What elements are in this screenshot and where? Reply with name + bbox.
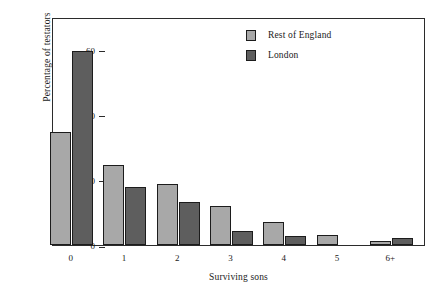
bar (232, 231, 253, 245)
bar (103, 165, 124, 245)
chart-legend: Rest of EnglandLondon (246, 25, 331, 65)
bar (210, 206, 231, 245)
bar (285, 236, 306, 245)
x-tick-label: 3 (211, 253, 251, 263)
legend-item: London (246, 45, 331, 65)
bar (157, 184, 178, 245)
bar (263, 222, 284, 245)
bar (317, 235, 338, 245)
y-tick-mark (99, 116, 105, 117)
y-axis-label: Percentage of testators (42, 0, 52, 137)
bar-chart-figure: Percentage of testators 0204060 0123456+… (0, 0, 439, 298)
legend-swatch-icon (246, 30, 256, 41)
bar (392, 238, 413, 245)
bar (125, 187, 146, 245)
x-tick-label: 2 (157, 253, 197, 263)
plot-area: 0204060 (52, 18, 425, 246)
y-tick-mark (99, 51, 105, 52)
bar (50, 132, 71, 245)
bar (179, 202, 200, 245)
legend-label: London (268, 50, 298, 60)
legend-swatch-icon (246, 50, 256, 61)
x-tick-label: 0 (51, 253, 91, 263)
bar (72, 51, 93, 245)
x-tick-label: 6+ (370, 253, 410, 263)
x-tick-label: 1 (104, 253, 144, 263)
x-tick-label: 4 (264, 253, 304, 263)
bar (370, 241, 391, 245)
legend-label: Rest of England (268, 30, 331, 40)
x-axis-label: Surviving sons (52, 272, 425, 282)
y-tick-mark (99, 247, 105, 248)
x-tick-label: 5 (317, 253, 357, 263)
legend-item: Rest of England (246, 25, 331, 45)
